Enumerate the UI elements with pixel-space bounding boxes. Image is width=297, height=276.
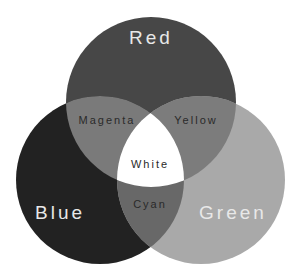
label-yellow: Yellow — [174, 114, 217, 126]
rgb-venn-diagram: Red Blue Green Magenta Yellow White Cyan — [0, 0, 297, 276]
label-cyan: Cyan — [133, 198, 167, 210]
label-green: Green — [199, 202, 267, 223]
label-blue: Blue — [35, 202, 85, 223]
label-white: White — [131, 158, 169, 170]
label-magenta: Magenta — [79, 114, 136, 126]
label-red: Red — [129, 27, 173, 48]
